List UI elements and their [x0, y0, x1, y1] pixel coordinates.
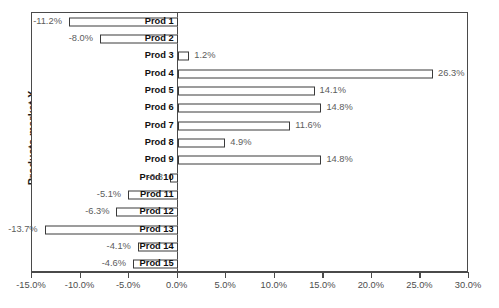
x-tick — [80, 272, 81, 278]
x-tick-label: 10.0% — [261, 281, 287, 290]
bar-prod-4 — [178, 69, 433, 78]
bar-row: Prod 13-13.7% — [32, 222, 467, 237]
bar-prod-5 — [178, 87, 315, 96]
value-label: 26.3% — [438, 69, 464, 78]
value-label: 14.1% — [320, 86, 346, 95]
bar-row: Prod 12-6.3% — [32, 205, 467, 220]
bar-chart: Products market X Prod 1-11.2%Prod 2-8.0… — [0, 0, 499, 308]
x-tick — [468, 272, 469, 278]
category-label: Prod 14 — [140, 242, 174, 251]
category-label: Prod 7 — [145, 121, 174, 130]
category-label: Prod 5 — [145, 86, 174, 95]
value-label: -6.3% — [85, 208, 109, 217]
category-label: Prod 1 — [145, 17, 174, 26]
bar-row: Prod 11-5.1% — [32, 188, 467, 203]
value-label: -8.0% — [69, 34, 93, 43]
bar-prod-7 — [178, 121, 291, 130]
bar-row: Prod 2-8.0% — [32, 32, 467, 47]
bar-row: Prod 914.8% — [32, 153, 467, 168]
x-tick — [322, 272, 323, 278]
category-label: Prod 15 — [140, 260, 174, 269]
category-label: Prod 2 — [145, 34, 174, 43]
bar-prod-9 — [178, 156, 322, 165]
value-label: 1.2% — [194, 52, 215, 61]
x-tick-label: -15.0% — [16, 281, 45, 290]
bar-row: Prod 514.1% — [32, 84, 467, 99]
value-label: 14.8% — [326, 156, 352, 165]
x-tick-label: 30.0% — [455, 281, 481, 290]
x-tick-label: 20.0% — [358, 281, 384, 290]
bar-row: Prod 31.2% — [32, 49, 467, 64]
x-tick-label: 5.0% — [215, 281, 236, 290]
x-tick — [177, 272, 178, 278]
bar-row: Prod 614.8% — [32, 101, 467, 116]
category-label: Prod 4 — [145, 69, 174, 78]
x-tick — [274, 272, 275, 278]
bar-row: Prod 10-0.8 — [32, 170, 467, 185]
x-tick-label: -10.0% — [65, 281, 94, 290]
category-label: Prod 13 — [140, 225, 174, 234]
value-label: -13.7% — [8, 225, 37, 234]
x-tick — [419, 272, 420, 278]
bar-row: Prod 711.6% — [32, 118, 467, 133]
bar-row: Prod 84.9% — [32, 136, 467, 151]
x-tick — [225, 272, 226, 278]
x-tick-label: 25.0% — [406, 281, 432, 290]
value-label: -4.6% — [102, 260, 126, 269]
value-label: -0.8 — [147, 173, 163, 182]
x-axis: -15.0%-10.0%-5.0%0.0%5.0%10.0%15.0%20.0%… — [31, 272, 468, 306]
category-label: Prod 9 — [145, 156, 174, 165]
bar-prod-8 — [178, 139, 226, 148]
value-label: -11.2% — [33, 17, 62, 26]
category-label: Prod 6 — [145, 104, 174, 113]
x-tick-label: 15.0% — [309, 281, 335, 290]
value-label: -5.1% — [97, 190, 121, 199]
bar-prod-3 — [178, 52, 190, 61]
value-label: 11.6% — [295, 121, 321, 130]
value-label: 14.8% — [326, 104, 352, 113]
x-tick-label: 0.0% — [166, 281, 187, 290]
bar-row: Prod 15-4.6% — [32, 257, 467, 272]
x-tick — [128, 272, 129, 278]
x-tick — [31, 272, 32, 278]
plot-area: Prod 1-11.2%Prod 2-8.0%Prod 31.2%Prod 42… — [31, 12, 468, 272]
category-label: Prod 3 — [145, 52, 174, 61]
bar-row: Prod 426.3% — [32, 66, 467, 81]
category-label: Prod 12 — [140, 208, 174, 217]
x-tick — [371, 272, 372, 278]
x-tick-label: -5.0% — [116, 281, 140, 290]
value-label: -4.1% — [107, 242, 131, 251]
value-label: 4.9% — [230, 138, 251, 147]
category-label: Prod 11 — [140, 190, 174, 199]
bar-row: Prod 1-11.2% — [32, 14, 467, 29]
bar-prod-6 — [178, 104, 322, 113]
bar-row: Prod 14-4.1% — [32, 240, 467, 255]
category-label: Prod 8 — [145, 138, 174, 147]
x-axis-line — [31, 272, 468, 273]
